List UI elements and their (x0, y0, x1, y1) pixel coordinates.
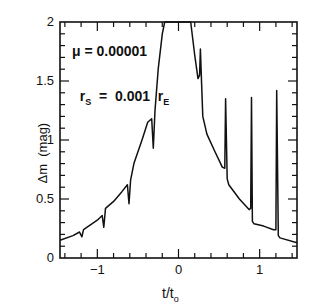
x-tick-label: −1 (82, 262, 112, 277)
x-axis-label-text: t/t (162, 285, 174, 301)
mu-text: μ = 0.00001 (72, 43, 147, 59)
y-tick-label: 1.5 (36, 73, 54, 88)
x-axis-label-subscript: o (174, 294, 179, 304)
y-axis-label-text: Δm (mag) (35, 123, 50, 184)
x-axis-label: t/to (162, 285, 179, 304)
re-subscript: E (163, 97, 169, 107)
y-axis-label: Δm (mag) (20, 130, 40, 190)
annotation-mu: μ = 0.00001 (72, 43, 147, 59)
annotation-rs: rS = 0.001 rE (72, 72, 169, 107)
x-tick-label: 1 (245, 262, 275, 277)
y-tick-label: 0.5 (36, 191, 54, 206)
x-tick-label: 0 (164, 262, 194, 277)
y-tick-label: 0 (47, 250, 54, 265)
y-tick-label: 2 (47, 14, 54, 29)
rs-value: = 0.001 r (91, 88, 163, 104)
